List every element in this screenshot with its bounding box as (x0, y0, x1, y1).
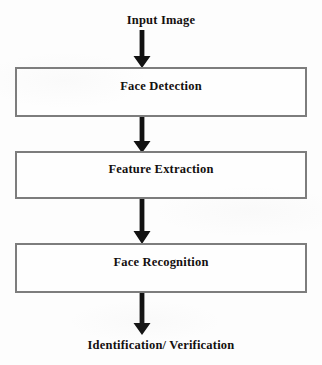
process-box-label: Face Detection (17, 79, 305, 94)
arrow-down-icon (131, 199, 153, 244)
process-box-label: Feature Extraction (17, 162, 305, 177)
process-box-feature-extraction: Feature Extraction (15, 151, 307, 199)
process-box-label: Face Recognition (17, 255, 305, 270)
face-recognition-flowchart: Input Image Face Detection Feature Extra… (0, 0, 322, 365)
process-box-face-detection: Face Detection (15, 67, 307, 117)
output-label: Identification/ Verification (0, 338, 322, 353)
arrow-down-icon (131, 117, 153, 153)
arrow-down-icon (131, 293, 153, 335)
arrow-down-icon (131, 30, 153, 68)
input-image-label: Input Image (0, 13, 322, 28)
process-box-face-recognition: Face Recognition (15, 243, 307, 293)
